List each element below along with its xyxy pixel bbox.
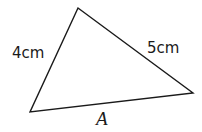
side-label-bottom: A [94, 108, 108, 129]
side-label-right: 5cm [147, 39, 179, 57]
side-label-left: 4cm [12, 44, 44, 62]
triangle-diagram: 4cm 5cm A [0, 0, 202, 132]
triangle [30, 8, 193, 112]
